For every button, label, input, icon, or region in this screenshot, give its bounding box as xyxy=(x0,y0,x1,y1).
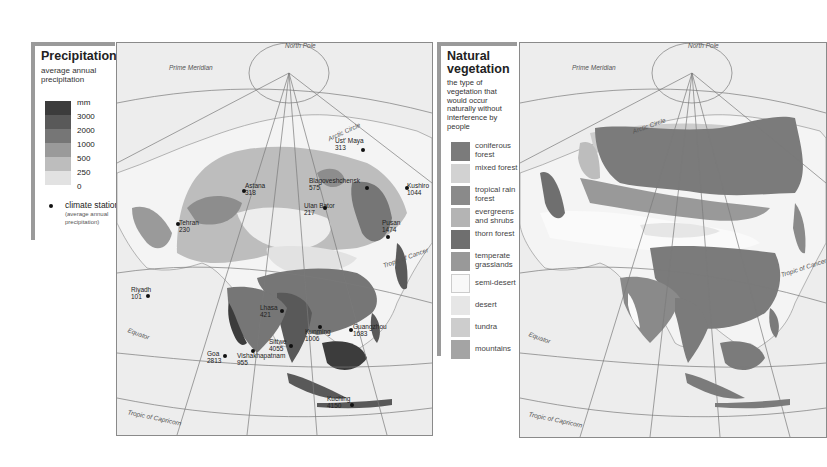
precipitation-map: North Pole Prime Meridian Arctic Circle … xyxy=(116,42,433,436)
station-dot-icon xyxy=(146,294,150,298)
swatch-0 xyxy=(45,171,71,185)
vegetation-legend: Natural vegetation the type of vegetatio… xyxy=(437,42,517,356)
prime-meridian-label: Prime Meridian xyxy=(572,65,616,72)
station-dot-icon xyxy=(49,204,53,208)
swatch xyxy=(451,142,470,161)
station-dot-icon xyxy=(365,186,369,190)
station-dot-icon xyxy=(289,344,293,348)
station-ust-maya: Ust' Maya313 xyxy=(335,138,364,152)
vegetation-map-graphic xyxy=(520,43,826,437)
station-dot-icon xyxy=(223,354,227,358)
station-dot-icon xyxy=(318,325,322,329)
precipitation-legend-subtitle: average annual precipitation xyxy=(41,66,115,84)
station-lhasa: Lhasa421 xyxy=(260,305,278,319)
scale-label: 2000 xyxy=(77,124,95,138)
precipitation-color-scale xyxy=(45,101,71,185)
swatch xyxy=(451,164,470,183)
station-dot-icon xyxy=(242,189,246,193)
station-dot-icon xyxy=(386,235,390,239)
station-dot-icon xyxy=(350,403,354,407)
scale-label: 250 xyxy=(77,166,95,180)
legend-item-temperate-grasslands: temperate grasslands xyxy=(451,252,521,271)
swatch xyxy=(451,230,470,249)
swatch xyxy=(451,296,470,315)
station-astana: Astana318 xyxy=(245,183,265,197)
scale-unit: mm xyxy=(77,96,95,110)
swatch xyxy=(451,208,470,227)
precipitation-legend-title: Precipitation xyxy=(41,50,115,63)
station-dot-icon xyxy=(251,349,255,353)
legend-item-mountains: mountains xyxy=(451,340,521,359)
precipitation-map-graphic xyxy=(117,43,432,435)
station-kuching: Kuching4150 xyxy=(327,396,351,410)
station-kushiro: Kushiro1044 xyxy=(407,183,429,197)
scale-label: 3000 xyxy=(77,110,95,124)
scale-label: 0 xyxy=(77,180,95,194)
station-dot-icon xyxy=(280,309,284,313)
station-kunming: Kunming1006 xyxy=(305,329,331,343)
vegetation-map: North Pole Prime Meridian Arctic Circle … xyxy=(519,42,827,438)
legend-item-tropical-rain-forest: tropical rain forest xyxy=(451,186,521,205)
swatch-250 xyxy=(45,157,71,171)
station-dot-icon xyxy=(323,206,327,210)
station-tehran: Tehran230 xyxy=(179,220,199,234)
station-pusan: Pusan1474 xyxy=(382,220,400,234)
swatch xyxy=(451,252,470,271)
legend-item-tundra: tundra xyxy=(451,318,521,337)
swatch-2000 xyxy=(45,115,71,129)
swatch-3000 xyxy=(45,101,71,115)
prime-meridian-label: Prime Meridian xyxy=(169,65,213,72)
station-dot-icon xyxy=(176,222,180,226)
legend-item-desert: desert xyxy=(451,296,521,315)
scale-label: 500 xyxy=(77,152,95,166)
station-ulan-bator: Ulan Bator217 xyxy=(304,203,335,217)
legend-item-thorn-forest: thorn forest xyxy=(451,230,521,249)
swatch xyxy=(451,274,470,293)
precipitation-scale-labels: mm 3000 2000 1000 500 250 0 xyxy=(77,96,95,194)
legend-item-coniferous-forest: coniferous forest xyxy=(451,142,521,161)
station-blagoveshchensk: Blagoveshchensk575 xyxy=(309,178,360,192)
north-pole-label: North Pole xyxy=(688,43,719,50)
station-dot-icon xyxy=(405,186,409,190)
precipitation-legend: Precipitation average annual precipitati… xyxy=(31,42,115,240)
station-vishakhapatnam: Vishakhapatnam955 xyxy=(237,353,285,367)
legend-item-evergreens-shrubs: evergreens and shrubs xyxy=(451,208,521,227)
station-guangzhou: Guangzhou1683 xyxy=(353,324,387,338)
station-sittwe: Sittwe4055 xyxy=(269,339,287,353)
swatch xyxy=(451,318,470,337)
vegetation-legend-subtitle: the type of vegetation that would occur … xyxy=(447,79,517,131)
scale-label: 1000 xyxy=(77,138,95,152)
swatch xyxy=(451,340,470,359)
swatch-500 xyxy=(45,143,71,157)
swatch xyxy=(451,186,470,205)
north-pole-label: North Pole xyxy=(285,43,316,50)
station-goa: Goa2813 xyxy=(207,351,221,365)
swatch-1000 xyxy=(45,129,71,143)
vegetation-legend-title: Natural vegetation xyxy=(447,50,517,76)
legend-item-semi-desert: semi-desert xyxy=(451,274,521,293)
station-dot-icon xyxy=(349,328,353,332)
station-dot-icon xyxy=(361,148,365,152)
legend-item-mixed-forest: mixed forest xyxy=(451,164,521,183)
